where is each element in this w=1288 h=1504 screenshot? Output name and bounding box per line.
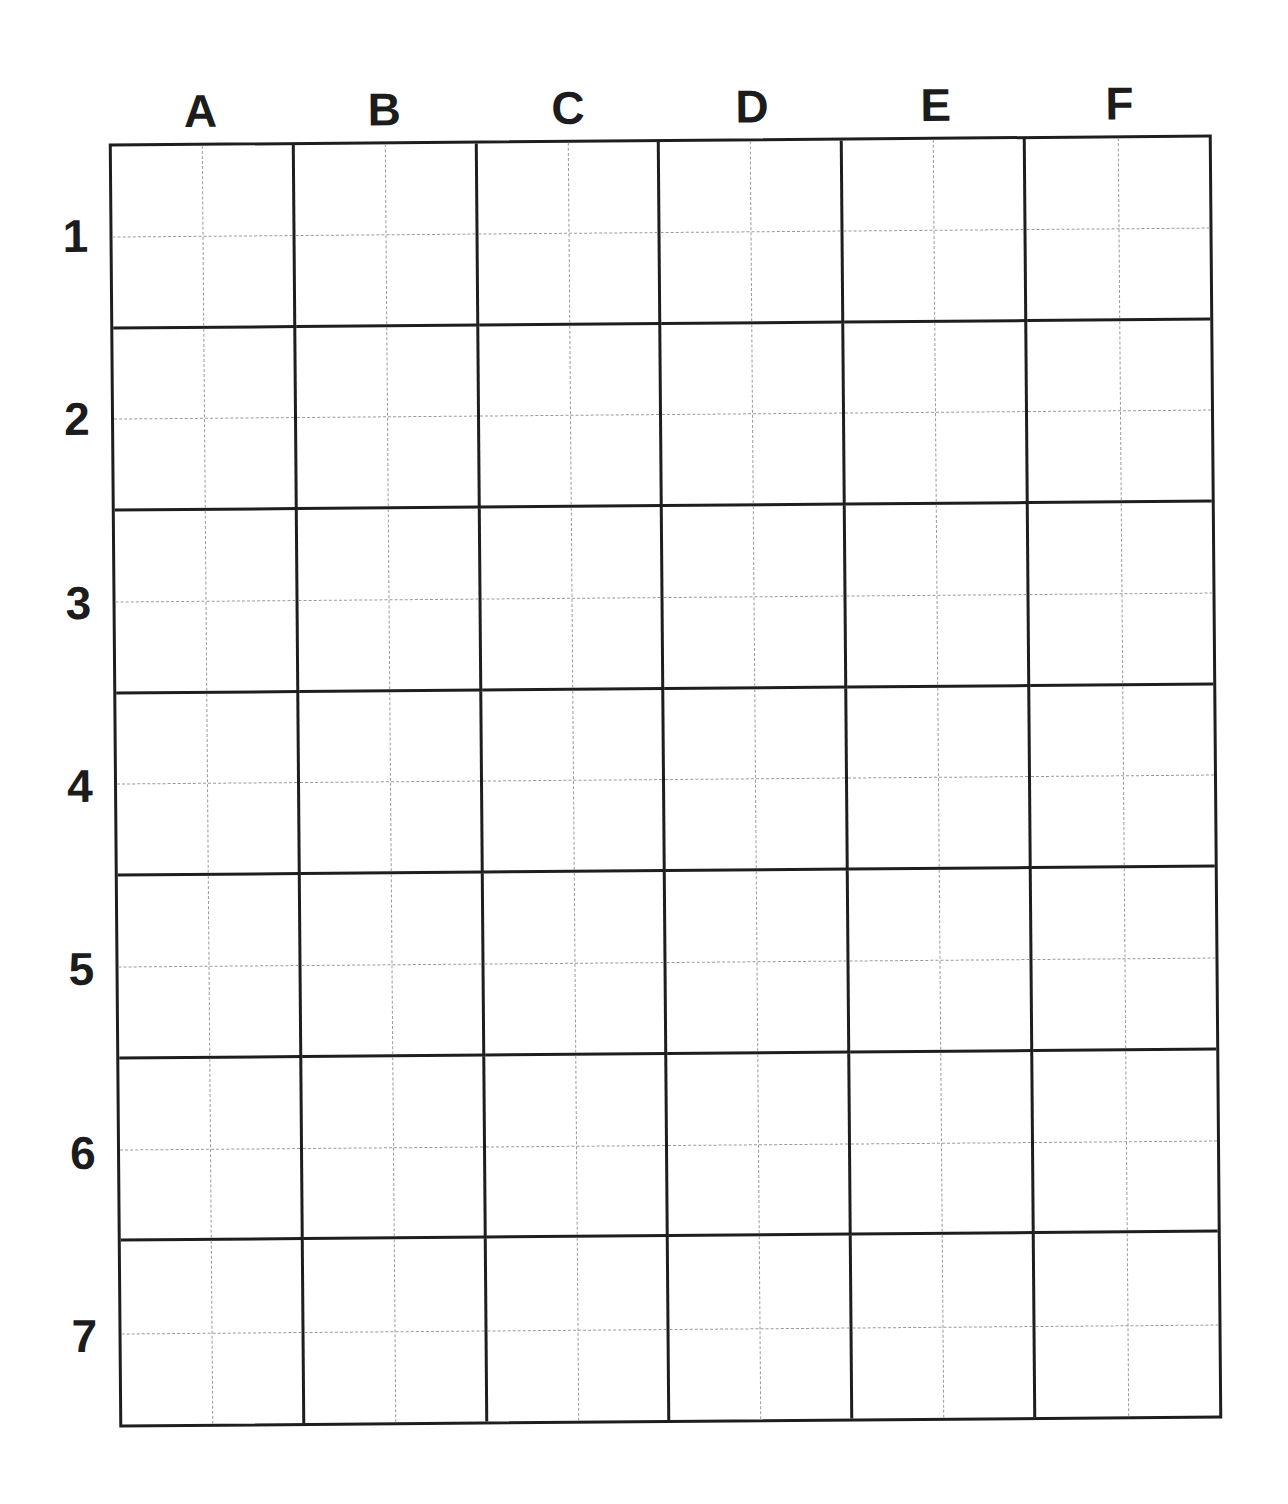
- grid-cell-e1: [843, 139, 1027, 323]
- row-label-6: 6: [63, 1128, 103, 1178]
- grid-cell-d2: [662, 323, 846, 507]
- grid-cell-d4: [665, 688, 849, 872]
- grid-cell-c4: [482, 690, 666, 874]
- grid-cell-d5: [666, 871, 850, 1055]
- grid-cell-c2: [479, 325, 663, 509]
- grid-sheet: ABCDEF 1234567: [0, 0, 1288, 1504]
- row-label-1: 1: [55, 210, 95, 260]
- grid-cell-f4: [1030, 685, 1214, 869]
- column-label-c: C: [538, 83, 598, 133]
- grid-cell-e2: [845, 322, 1029, 506]
- column-label-b: B: [354, 84, 414, 134]
- grid-cell-e3: [846, 504, 1030, 688]
- grid-cell-b7: [304, 1239, 488, 1423]
- grid-cell-c5: [483, 872, 667, 1056]
- column-labels: ABCDEF: [0, 0, 1282, 6]
- row-label-3: 3: [58, 577, 98, 627]
- grid-cell-a4: [116, 693, 300, 877]
- grid-cell-e6: [851, 1052, 1035, 1236]
- grid-cell-c3: [480, 507, 664, 691]
- grid-cell-c1: [477, 142, 661, 326]
- grid-cell-b1: [295, 144, 479, 328]
- row-label-2: 2: [57, 394, 97, 444]
- grid-cell-b6: [302, 1056, 486, 1240]
- grid-cell-f5: [1032, 868, 1216, 1052]
- grid-cell-f7: [1035, 1233, 1219, 1417]
- grid-cell-c7: [486, 1237, 670, 1421]
- grid-cell-f2: [1027, 320, 1211, 504]
- grid-cell-e7: [852, 1234, 1036, 1418]
- grid-cell-a6: [119, 1058, 303, 1242]
- row-labels: 1234567: [0, 0, 1282, 6]
- grid-cell-a1: [112, 145, 296, 329]
- row-label-4: 4: [60, 761, 100, 811]
- row-label-7: 7: [64, 1311, 104, 1361]
- column-label-a: A: [170, 86, 230, 136]
- grid-cell-b2: [296, 326, 480, 510]
- grid-cell-b4: [299, 691, 483, 875]
- grid-cell-d3: [663, 506, 847, 690]
- grid-cell-a5: [118, 875, 302, 1059]
- column-label-e: E: [906, 80, 966, 130]
- column-label-f: F: [1089, 78, 1149, 128]
- grid-cell-a3: [115, 510, 299, 694]
- grid-cell-a7: [121, 1240, 305, 1424]
- grid-cell-f1: [1026, 138, 1210, 322]
- grid-cell-a2: [113, 328, 297, 512]
- grid-cell-e4: [848, 687, 1032, 871]
- grid-cell-d6: [668, 1053, 852, 1237]
- grid-cell-c6: [485, 1055, 669, 1239]
- grid-cell-d7: [669, 1236, 853, 1420]
- column-label-d: D: [722, 81, 782, 131]
- grid-cell-b5: [301, 874, 485, 1058]
- grid-cell-b3: [298, 509, 482, 693]
- grid-cell-e5: [849, 869, 1033, 1053]
- reference-grid: [109, 135, 1222, 1428]
- grid-cell-d1: [660, 141, 844, 325]
- row-label-5: 5: [61, 944, 101, 994]
- grid-cell-f6: [1033, 1050, 1217, 1234]
- grid-cell-f3: [1029, 503, 1213, 687]
